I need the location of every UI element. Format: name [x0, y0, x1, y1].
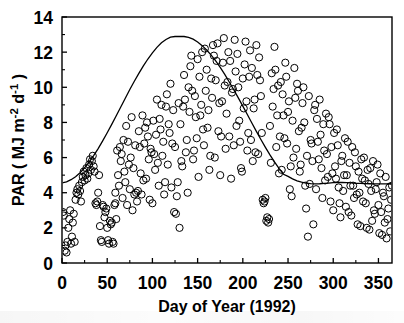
x-tick-label: 50	[97, 273, 117, 293]
x-tick-label: 150	[183, 273, 212, 293]
x-tick-label: 350	[364, 273, 393, 293]
scan-artifact	[0, 311, 404, 323]
y-tick-label: 6	[43, 148, 53, 168]
x-tick-label: 300	[319, 273, 348, 293]
par-scatter-chart: 05010015020025030035002468101214Day of Y…	[0, 0, 404, 323]
y-tick-label: 8	[43, 113, 53, 133]
y-tick-label: 2	[43, 218, 53, 238]
y-tick-label: 10	[34, 78, 54, 98]
y-tick-label: 14	[34, 8, 54, 28]
y-axis-label: PAR ( MJ m-2 d-1 )	[8, 74, 27, 206]
y-tick-label: 0	[43, 254, 53, 274]
y-tick-label: 4	[43, 183, 53, 203]
y-tick-label: 12	[34, 43, 54, 63]
x-tick-label: 200	[228, 273, 257, 293]
figure-panel: 05010015020025030035002468101214Day of Y…	[0, 0, 404, 323]
x-tick-label: 0	[57, 273, 67, 293]
x-tick-label: 100	[138, 273, 167, 293]
x-tick-label: 250	[273, 273, 302, 293]
